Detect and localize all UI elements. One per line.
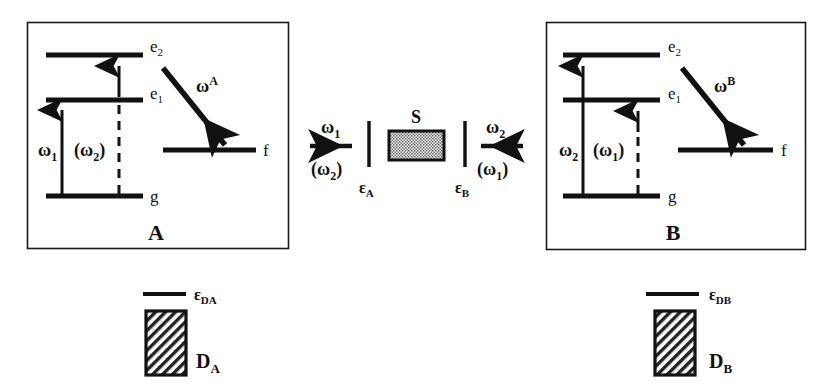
panel-b-label-f: f <box>781 141 787 160</box>
panel-b: e2 e1 f g ω2 (ω1) ωB B <box>547 23 806 250</box>
panel-a-label-g: g <box>150 187 159 206</box>
source-label: S <box>411 107 421 127</box>
panel-a-label-e2: e2 <box>150 37 163 58</box>
detector-a-label: DA <box>196 350 220 376</box>
detector-b-label: DB <box>709 350 732 376</box>
panel-a-label-omegaA: ωA <box>196 74 218 96</box>
panel-a-label-omega1: ω1 <box>38 140 57 164</box>
panel-b-label-e1: e1 <box>668 84 681 105</box>
detector-b-slit-label: εDB <box>709 286 732 306</box>
detector-a: εDA DA <box>143 286 220 376</box>
panel-b-label-e2: e2 <box>668 37 681 58</box>
beam-left-alternate-label: (ω2) <box>311 159 342 183</box>
detector-b: εDB DB <box>646 286 732 376</box>
panel-a-label-omega2-alt: (ω2) <box>74 140 105 164</box>
detector-a-box <box>146 311 186 375</box>
panel-b-label-omegaB: ωB <box>714 74 735 96</box>
source-assembly: ω1 (ω2) εA S εB ω2 (ω1) <box>310 107 523 199</box>
panel-a-label-f: f <box>263 141 269 160</box>
panel-a-letter: A <box>148 220 164 245</box>
aperture-label-epsilon-b: εB <box>455 179 470 199</box>
aperture-label-epsilon-a: εA <box>359 179 374 199</box>
panel-b-label-omega1-alt: (ω1) <box>593 140 624 164</box>
detector-a-slit-label: εDA <box>194 286 217 306</box>
beam-right-primary-label: ω2 <box>486 117 505 141</box>
panel-b-label-omega2: ω2 <box>559 140 578 164</box>
beam-left-primary-label: ω1 <box>321 117 340 141</box>
source-box <box>389 131 444 160</box>
panel-b-letter: B <box>666 220 681 245</box>
panel-a: e2 e1 f g ω1 (ω2) ωA <box>28 23 289 249</box>
beam-right-alternate-label: (ω1) <box>477 159 508 183</box>
panel-a-label-e1: e1 <box>150 84 163 105</box>
detector-b-box <box>655 311 695 375</box>
panel-b-label-g: g <box>668 187 677 206</box>
figure-canvas: e2 e1 f g ω1 (ω2) ωA <box>0 0 827 388</box>
